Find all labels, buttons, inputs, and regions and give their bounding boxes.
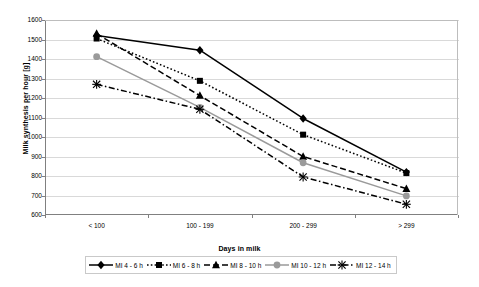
data-point-diamond-marker xyxy=(300,114,307,122)
x-axis-tick-mark xyxy=(148,215,149,218)
y-axis-tick-label: 600 xyxy=(14,212,42,219)
series-2 xyxy=(93,29,411,192)
y-axis-tick-label: 1100 xyxy=(14,115,42,122)
x-axis-tick-label: 200 - 299 xyxy=(289,222,316,229)
y-axis-tick-label: 900 xyxy=(14,154,42,161)
gridline xyxy=(46,215,459,216)
y-axis-tick-labels: 6007008009001000110012001300140015001600 xyxy=(12,0,42,287)
y-axis-tick-label: 700 xyxy=(14,193,42,200)
data-point-triangle-marker xyxy=(299,152,307,160)
series-0 xyxy=(93,31,410,176)
data-point-x-marker xyxy=(338,261,347,270)
x-axis-tick-mark xyxy=(252,215,253,218)
y-axis-tick-label: 1500 xyxy=(14,37,42,44)
data-point-circle-marker xyxy=(403,192,410,199)
data-point-circle-marker xyxy=(93,53,100,60)
legend-marker-triangle-icon xyxy=(204,260,228,270)
y-axis-tick-label: 1000 xyxy=(14,134,42,141)
legend-marker-x-icon xyxy=(330,260,354,270)
y-axis-tick-label: 1600 xyxy=(14,17,42,24)
legend-entry-4[interactable]: MI 12 - 14 h xyxy=(330,260,393,270)
series-1 xyxy=(94,36,410,177)
y-axis-tick-label: 800 xyxy=(14,173,42,180)
data-point-x-marker xyxy=(92,80,101,89)
data-point-square-marker xyxy=(197,78,203,84)
y-axis-tick-label: 1400 xyxy=(14,56,42,63)
series-line xyxy=(97,36,407,173)
data-point-square-marker xyxy=(156,262,162,268)
data-point-square-marker xyxy=(403,170,409,176)
legend-label: MI 6 - 8 h xyxy=(172,262,202,269)
x-axis-tick-mark xyxy=(458,215,459,218)
data-point-x-marker xyxy=(402,200,411,209)
legend-entry-3[interactable]: MI 10 - 12 h xyxy=(265,260,328,270)
x-axis-tick-label: < 100 xyxy=(88,222,104,229)
data-point-circle-marker xyxy=(300,159,307,166)
legend-label: MI 12 - 14 h xyxy=(355,262,393,269)
series-layer xyxy=(45,20,458,215)
x-axis-tick-mark xyxy=(45,215,46,218)
data-point-square-marker xyxy=(300,132,306,138)
line-chart: Milk synthesis per hour [g] 600700800900… xyxy=(0,0,479,287)
data-point-circle-marker xyxy=(274,262,281,269)
x-axis-tick-label: > 299 xyxy=(398,222,414,229)
legend-marker-circle-icon xyxy=(265,260,289,270)
series-line xyxy=(97,39,407,174)
data-point-diamond-marker xyxy=(196,46,203,54)
x-axis-title: Days in milk xyxy=(0,245,479,252)
data-point-x-marker xyxy=(195,105,204,114)
series-line xyxy=(97,84,407,204)
data-point-x-marker xyxy=(299,173,308,182)
x-axis-tick-mark xyxy=(355,215,356,218)
data-point-triangle-marker xyxy=(93,29,101,36)
legend-entry-1[interactable]: MI 6 - 8 h xyxy=(147,260,202,270)
legend-marker-square-icon xyxy=(147,260,171,270)
x-axis-tick-label: 100 - 199 xyxy=(186,222,213,229)
y-axis-tick-label: 1200 xyxy=(14,95,42,102)
legend-marker-diamond-icon xyxy=(89,260,113,270)
data-point-diamond-marker xyxy=(98,261,105,269)
data-point-triangle-marker xyxy=(196,91,204,99)
chart-legend: MI 4 - 6 hMI 6 - 8 hMI 8 - 10 hMI 10 - 1… xyxy=(85,256,397,274)
legend-label: MI 10 - 12 h xyxy=(290,262,328,269)
series-4 xyxy=(92,80,411,209)
legend-label: MI 8 - 10 h xyxy=(229,262,263,269)
legend-entry-0[interactable]: MI 4 - 6 h xyxy=(89,260,144,270)
legend-label: MI 4 - 6 h xyxy=(114,262,144,269)
y-axis-tick-label: 1300 xyxy=(14,76,42,83)
legend-entry-2[interactable]: MI 8 - 10 h xyxy=(204,260,263,270)
